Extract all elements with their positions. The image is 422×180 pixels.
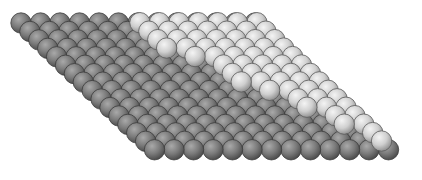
adlayer-sphere — [185, 46, 205, 66]
substrate-sphere — [320, 140, 340, 160]
substrate-sphere — [261, 140, 281, 160]
atomic-surface-render — [0, 0, 422, 180]
adlayer-sphere — [297, 97, 317, 117]
substrate-sphere — [222, 140, 242, 160]
substrate-sphere — [300, 140, 320, 160]
substrate-sphere — [144, 140, 164, 160]
substrate-sphere — [242, 140, 262, 160]
adlayer-sphere — [371, 131, 391, 151]
substrate-sphere — [203, 140, 223, 160]
substrate-sphere — [281, 140, 301, 160]
substrate-sphere — [164, 140, 184, 160]
adlayer-sphere — [334, 114, 354, 134]
adlayer-sphere — [156, 38, 176, 58]
adlayer-sphere — [231, 72, 251, 92]
sphere-lattice-canvas — [0, 0, 422, 180]
substrate-sphere — [183, 140, 203, 160]
substrate-sphere — [339, 140, 359, 160]
adlayer-sphere — [259, 80, 279, 100]
